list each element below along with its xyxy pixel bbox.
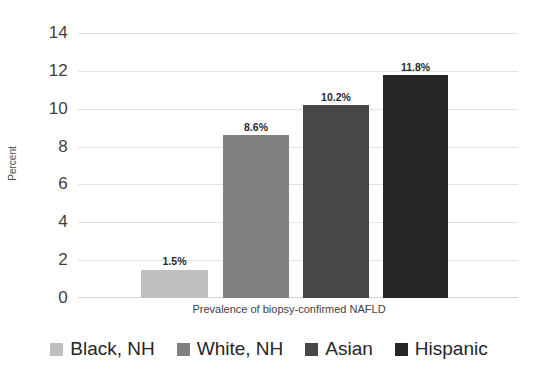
legend-item-white-nh[interactable]: White, NH [177, 338, 284, 360]
gridline [78, 109, 518, 110]
gridline [78, 71, 518, 72]
legend: Black, NH White, NH Asian Hispanic [0, 338, 538, 360]
y-tick-label: 10 [8, 99, 68, 119]
bar-value-label: 8.6% [223, 121, 289, 133]
bar-value-label: 1.5% [141, 255, 208, 267]
legend-label: Hispanic [415, 338, 488, 360]
bar-black-nh [141, 270, 208, 298]
bar-asian [303, 105, 369, 298]
gridline [78, 147, 518, 148]
y-tick-label: 2 [8, 250, 68, 270]
legend-item-black-nh[interactable]: Black, NH [50, 338, 154, 360]
y-axis-title: Percent [7, 129, 18, 199]
legend-label: Black, NH [70, 338, 154, 360]
legend-swatch-icon [50, 343, 63, 356]
x-axis-category-label: Prevalence of biopsy-confirmed NAFLD [0, 303, 538, 315]
legend-item-asian[interactable]: Asian [305, 338, 373, 360]
bar-value-label: 11.8% [383, 61, 448, 73]
y-tick-label: 14 [8, 23, 68, 43]
gridline [78, 222, 518, 223]
y-tick-label: 12 [8, 61, 68, 81]
legend-swatch-icon [177, 343, 190, 356]
legend-swatch-icon [305, 343, 318, 356]
gridline [78, 184, 518, 185]
gridline [78, 33, 518, 34]
bar-hispanic [383, 75, 448, 298]
bar-value-label: 10.2% [303, 91, 369, 103]
legend-label: Asian [325, 338, 373, 360]
bar-white-nh [223, 135, 289, 298]
plot-area: 1.5% 8.6% 10.2% 11.8% [78, 33, 518, 298]
legend-item-hispanic[interactable]: Hispanic [395, 338, 488, 360]
bar-chart: 14 12 10 8 6 4 2 0 Percent 1.5% 8.6% 10.… [0, 0, 538, 376]
y-tick-label: 4 [8, 212, 68, 232]
legend-label: White, NH [197, 338, 284, 360]
legend-swatch-icon [395, 343, 408, 356]
